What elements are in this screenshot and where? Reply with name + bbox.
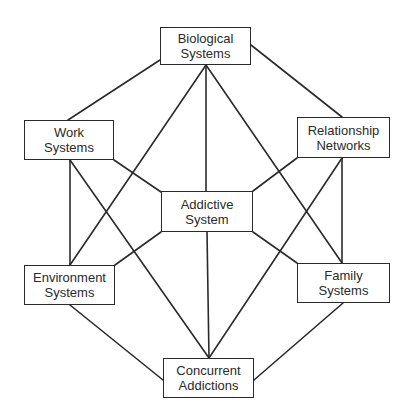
- edge-work-to-concurrent: [70, 160, 209, 358]
- node-concurrent-addictions: Concurrent Addictions: [163, 358, 254, 398]
- addiction-systems-diagram: Biological Systems Work Systems Relation…: [0, 0, 412, 415]
- edge-biological-to-family: [206, 65, 342, 263]
- node-label-line2: Addictions: [179, 378, 239, 393]
- edge-relationship-to-addictive: [253, 158, 297, 191]
- node-label-line1: Concurrent: [176, 363, 240, 378]
- node-label-line2: Systems: [181, 46, 231, 61]
- edge-addictive-to-environment: [115, 232, 161, 265]
- edge-biological-to-environment: [70, 65, 206, 265]
- node-label-line2: Systems: [44, 140, 94, 155]
- node-environment-systems: Environment Systems: [24, 265, 115, 305]
- node-relationship-networks: Relationship Networks: [297, 117, 390, 158]
- node-label-line2: Systems: [45, 285, 95, 300]
- node-label-line1: Family: [324, 268, 362, 283]
- node-label-line2: Systems: [319, 283, 369, 298]
- node-biological-systems: Biological Systems: [160, 27, 251, 65]
- node-label-line1: Biological: [178, 31, 234, 46]
- edge-environment-to-concurrent: [70, 305, 163, 380]
- node-family-systems: Family Systems: [297, 263, 390, 303]
- edge-biological-to-work: [68, 60, 160, 120]
- node-addictive-system: Addictive System: [161, 191, 253, 232]
- edge-addictive-to-concurrent: [207, 232, 209, 358]
- node-label-line2: Networks: [316, 138, 370, 153]
- edge-family-to-concurrent: [254, 303, 343, 380]
- node-work-systems: Work Systems: [24, 120, 114, 160]
- node-label-line1: Addictive: [181, 197, 234, 212]
- edge-relationship-to-concurrent: [209, 158, 342, 358]
- edge-biological-to-relationship: [251, 45, 342, 117]
- node-label-line1: Work: [54, 125, 84, 140]
- node-label-line2: System: [185, 212, 228, 227]
- node-label-line1: Relationship: [308, 123, 380, 138]
- node-label-line1: Environment: [33, 270, 106, 285]
